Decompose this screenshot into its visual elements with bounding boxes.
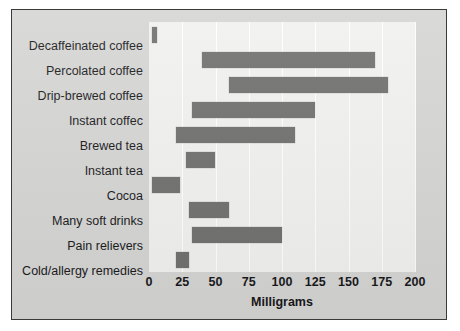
x-axis-tick-labels: 0255075100125150175200 — [149, 275, 415, 293]
tick-label: 200 — [405, 275, 426, 289]
bar — [189, 202, 229, 218]
category-label: Decaffeinated coffee — [0, 34, 143, 59]
tick-label: 0 — [146, 275, 153, 289]
tick-label: 125 — [305, 275, 326, 289]
x-axis-title: Milligrams — [149, 295, 415, 309]
bar-row — [149, 172, 415, 197]
tick-label: 150 — [338, 275, 359, 289]
bar-row — [149, 72, 415, 97]
bar — [176, 127, 296, 143]
category-label: Instant coffec — [0, 109, 143, 134]
plot-area: Decaffeinated coffeePercolated coffeeDri… — [149, 22, 415, 272]
chart-figure: Decaffeinated coffeePercolated coffeeDri… — [11, 9, 447, 320]
category-label: Brewed tea — [0, 134, 143, 159]
category-label: Cocoa — [0, 184, 143, 209]
bar-row — [149, 22, 415, 47]
tick-label: 25 — [175, 275, 189, 289]
tick-label: 75 — [242, 275, 256, 289]
tick-label: 175 — [371, 275, 392, 289]
gridline — [415, 22, 416, 272]
category-label: Percolated coffee — [0, 59, 143, 84]
category-label: Drip-brewed coffee — [0, 84, 143, 109]
bar-row — [149, 147, 415, 172]
category-label: Cold/allergy remedies — [0, 259, 143, 284]
category-label: Many soft drinks — [0, 209, 143, 234]
bar — [176, 252, 189, 268]
bar — [202, 52, 375, 68]
bar — [186, 152, 215, 168]
bar — [229, 77, 389, 93]
category-label: Pain relievers — [0, 234, 143, 259]
bar-row — [149, 122, 415, 147]
bar-row — [149, 222, 415, 247]
tick-label: 50 — [209, 275, 223, 289]
bar — [152, 177, 180, 193]
tick-label: 100 — [272, 275, 293, 289]
bar — [152, 27, 157, 43]
bar — [192, 227, 282, 243]
bar-row — [149, 197, 415, 222]
bar-row — [149, 97, 415, 122]
category-label: Instant tea — [0, 159, 143, 184]
bar-row — [149, 247, 415, 272]
bar — [192, 102, 316, 118]
bar-row — [149, 47, 415, 72]
